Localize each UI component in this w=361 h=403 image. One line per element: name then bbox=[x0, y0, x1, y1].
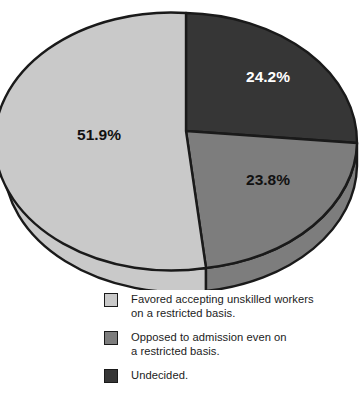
chart-legend: Favored accepting unskilled workers on a… bbox=[0, 288, 361, 403]
legend-item-opposed: Opposed to admission even on a restricte… bbox=[104, 330, 287, 358]
pie-slice-opposed bbox=[186, 131, 357, 268]
legend-swatch-opposed-icon bbox=[104, 331, 118, 345]
slice-label-opposed: 23.8% bbox=[246, 171, 290, 188]
legend-item-favored: Favored accepting unskilled workers on a… bbox=[104, 292, 314, 320]
legend-label-opposed: Opposed to admission even on a restricte… bbox=[131, 330, 287, 358]
pie-top-face bbox=[0, 13, 357, 271]
slice-label-favored: 51.9% bbox=[77, 126, 121, 143]
legend-item-undecided: Undecided. bbox=[104, 368, 188, 383]
pie-chart-graphic: 24.2% 23.8% 51.9% bbox=[0, 0, 361, 290]
pie-chart-figure: 24.2% 23.8% 51.9% Favored accepting unsk… bbox=[0, 0, 361, 403]
slice-label-undecided: 24.2% bbox=[246, 68, 290, 85]
legend-label-undecided: Undecided. bbox=[131, 368, 188, 382]
legend-label-favored: Favored accepting unskilled workers on a… bbox=[131, 292, 314, 320]
legend-swatch-undecided-icon bbox=[104, 369, 118, 383]
legend-swatch-favored-icon bbox=[104, 293, 118, 307]
